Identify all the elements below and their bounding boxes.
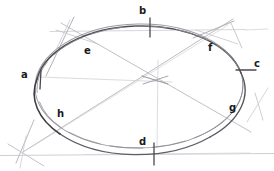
point-label-c: c — [254, 59, 260, 69]
diagonal-f-to-h-echo — [30, 25, 228, 148]
point-label-d: d — [139, 137, 146, 147]
point-label-b: b — [139, 6, 146, 16]
horizontal-guide-lines — [0, 30, 274, 156]
ellipse-outline — [34, 22, 245, 154]
sketch-drawing-surface — [0, 0, 274, 171]
axis-vertex-ticks — [40, 18, 256, 165]
ellipse-main-faint-pass — [34, 22, 244, 150]
tangent-construction-strokes — [8, 17, 268, 168]
right-edge-hook-stroke-2 — [247, 88, 268, 122]
point-label-g: g — [229, 103, 236, 113]
ellipse-arc-bottom — [60, 134, 210, 155]
center-cross-marks — [40, 60, 172, 148]
center-cross-vertical-line — [157, 60, 158, 148]
point-label-h: h — [57, 109, 64, 119]
diagonal-f-to-h-line — [23, 19, 233, 152]
diagonal-e-to-g-line — [61, 23, 251, 132]
point-label-f: f — [208, 43, 212, 53]
tangent-right-short-stroke — [231, 23, 242, 48]
ellipse-construction-figure: a b c d e f g h — [0, 0, 274, 171]
ellipse-arc-left — [34, 79, 60, 134]
point-label-a: a — [21, 70, 28, 80]
point-label-e: e — [84, 46, 91, 56]
right-upper-guide-stroke — [246, 29, 268, 30]
